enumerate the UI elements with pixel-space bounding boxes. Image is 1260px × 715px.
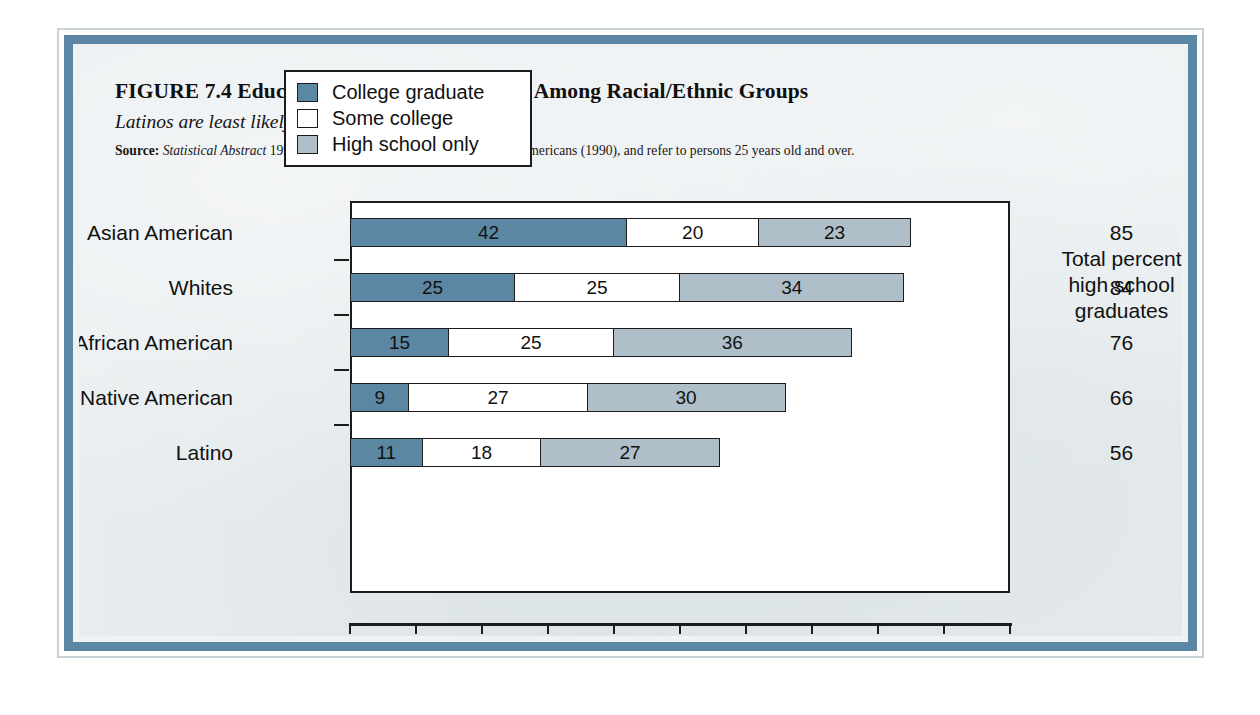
- total-value: 76: [1034, 331, 1182, 355]
- legend-item-college-graduate: College graduate: [297, 79, 521, 105]
- legend-label-college-graduate: College graduate: [332, 82, 484, 102]
- category-label: Asian American: [87, 221, 233, 245]
- total-value: 66: [1034, 386, 1182, 410]
- bar-segment-value: 11: [376, 442, 396, 464]
- bar-segment-value: 30: [676, 387, 697, 409]
- x-axis-tick-label: 20: [470, 633, 493, 636]
- legend-label-high-school-only: High school only: [332, 134, 479, 154]
- bar-segment-value: 36: [722, 332, 743, 354]
- bar-segment-value: 34: [781, 277, 802, 299]
- legend-swatch-high-school-only: [297, 135, 318, 154]
- bar-row: 422023: [350, 218, 911, 247]
- figure-body: FIGURE 7.4 Educational Attainment Differ…: [79, 50, 1182, 636]
- bar-segment: 34: [680, 273, 904, 302]
- bar-row: 92730: [350, 383, 786, 412]
- category-label: Latino: [176, 441, 233, 465]
- category-tick: [334, 424, 349, 426]
- totals-header-line-2: high school: [1034, 272, 1182, 298]
- bar-segment-value: 25: [520, 332, 541, 354]
- bar-segment-value: 15: [389, 332, 410, 354]
- bar-row: 252534: [350, 273, 904, 302]
- x-axis-tick-label: 30: [536, 633, 559, 636]
- category-label: African American: [79, 331, 233, 355]
- bar-row: 152536: [350, 328, 852, 357]
- bar-row: 111827: [350, 438, 720, 467]
- x-axis-tick-label: 70: [800, 633, 823, 636]
- total-value: 56: [1034, 441, 1182, 465]
- totals-column-header: Total percent high school graduates: [1034, 246, 1182, 324]
- x-axis-tick-label: 60: [734, 633, 757, 636]
- category-label: Native American: [80, 386, 233, 410]
- x-axis-line: [350, 623, 1012, 626]
- legend-swatch-college-graduate: [297, 83, 318, 102]
- bar-segment: 27: [409, 383, 587, 412]
- bar-segment-value: 25: [586, 277, 607, 299]
- bar-segment-value: 42: [478, 222, 499, 244]
- legend-swatch-some-college: [297, 109, 318, 128]
- bar-segment-value: 27: [619, 442, 640, 464]
- totals-header-line-3: graduates: [1034, 298, 1182, 324]
- bar-segment-value: 18: [471, 442, 492, 464]
- category-tick: [334, 314, 349, 316]
- category-label: Whites: [169, 276, 233, 300]
- category-tick: [334, 369, 349, 371]
- x-axis-tick-label: 0: [344, 633, 356, 636]
- bar-segment: 15: [350, 328, 449, 357]
- legend-item-some-college: Some college: [297, 105, 521, 131]
- x-axis-tick-label: 90: [932, 633, 955, 636]
- bar-segment: 9: [350, 383, 409, 412]
- source-label: Source:: [115, 143, 159, 158]
- x-axis-tick-label: 40: [602, 633, 625, 636]
- bar-segment-value: 20: [682, 222, 703, 244]
- bar-segment-value: 27: [487, 387, 508, 409]
- bar-segment: 11: [350, 438, 423, 467]
- bar-segment: 36: [614, 328, 852, 357]
- bar-segment: 27: [541, 438, 719, 467]
- legend-label-some-college: Some college: [332, 108, 453, 128]
- bar-segment: 25: [350, 273, 515, 302]
- bar-segment: 20: [627, 218, 759, 247]
- x-axis-tick-label: 50: [668, 633, 691, 636]
- x-axis-tick-label: 80: [866, 633, 889, 636]
- figure-inner-border: FIGURE 7.4 Educational Attainment Differ…: [64, 35, 1197, 651]
- chart-legend: College graduate Some college High schoo…: [284, 70, 532, 167]
- category-tick: [334, 259, 349, 261]
- bar-segment: 18: [423, 438, 542, 467]
- x-axis-tick-label: 100: [992, 633, 1027, 636]
- bar-segment-value: 25: [422, 277, 443, 299]
- total-value: 85: [1034, 221, 1182, 245]
- bar-segment: 23: [759, 218, 911, 247]
- figure-outer-frame: FIGURE 7.4 Educational Attainment Differ…: [57, 28, 1204, 658]
- bar-segment-value: 23: [824, 222, 845, 244]
- bar-segment: 30: [588, 383, 786, 412]
- bar-segment-value: 9: [374, 387, 385, 409]
- x-axis-tick-label: 10: [404, 633, 427, 636]
- totals-header-line-1: Total percent: [1034, 246, 1182, 272]
- source-publication: Statistical Abstract: [163, 143, 267, 158]
- bar-segment: 25: [515, 273, 680, 302]
- bar-segment: 42: [350, 218, 627, 247]
- legend-item-high-school-only: High school only: [297, 131, 521, 157]
- bar-segment: 25: [449, 328, 614, 357]
